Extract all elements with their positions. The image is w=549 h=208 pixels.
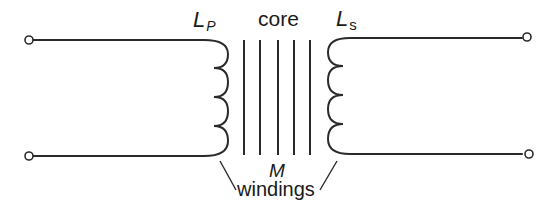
windings-leader-right: [320, 161, 337, 190]
primary-bottom-terminal-icon: [25, 152, 33, 160]
primary-top-terminal-icon: [25, 36, 33, 44]
secondary-inductance-label: Ls: [336, 6, 357, 33]
core-label: core: [258, 7, 299, 30]
secondary-bottom-terminal-icon: [525, 150, 533, 158]
transformer-diagram: LP core Ls M windings: [0, 0, 549, 208]
secondary-top-terminal-icon: [523, 33, 531, 41]
core-laminations: [244, 40, 310, 155]
primary-coil-icon: [204, 40, 228, 156]
secondary-coil-icon: [328, 38, 350, 154]
primary-inductance-label: LP: [193, 7, 216, 34]
windings-leader-left: [220, 161, 236, 190]
windings-label: windings: [236, 178, 315, 200]
transformer-svg: LP core Ls M windings: [0, 0, 549, 208]
